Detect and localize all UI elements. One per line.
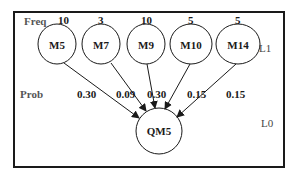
level-0-label: L0 [261, 118, 273, 129]
freq-value-m10: 5 [188, 15, 194, 26]
diagram-canvas: Freq Prob L1 L0 10 3 10 5 5 M5 M7 M9 M10… [0, 0, 295, 174]
freq-value-m7: 3 [98, 15, 104, 26]
edge-m7-qm5 [111, 63, 146, 111]
edge-m10-qm5 [165, 64, 190, 109]
node-label-m5: M5 [49, 40, 65, 51]
prob-value-m5: 0.30 [77, 89, 96, 100]
node-label-m7: M7 [93, 40, 109, 51]
prob-value-m14: 0.15 [226, 89, 245, 100]
node-label-m9: M9 [138, 40, 154, 51]
freq-value-m9: 10 [141, 15, 152, 26]
level-1-label: L1 [259, 43, 271, 54]
node-label-m10: M10 [180, 40, 201, 51]
freq-value-m14: 5 [235, 15, 241, 26]
node-label-qm5: QM5 [147, 126, 171, 137]
prob-label: Prob [20, 89, 43, 100]
prob-value-m9: 0.30 [147, 89, 166, 100]
node-label-m14: M14 [227, 40, 248, 51]
prob-value-m7: 0.09 [116, 89, 135, 100]
freq-label: Freq [24, 16, 46, 27]
edge-m9-qm5 [147, 64, 155, 108]
freq-value-m5: 10 [58, 15, 69, 26]
prob-value-m10: 0.15 [187, 89, 206, 100]
